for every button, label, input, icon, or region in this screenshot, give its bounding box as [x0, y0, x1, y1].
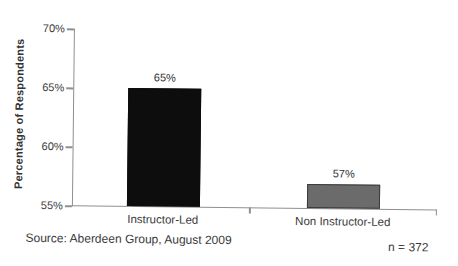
x-category-label-non-instructor-led: Non Instructor-Led [263, 215, 423, 229]
bar-instructor-led [127, 88, 201, 207]
y-tick-mark [66, 146, 73, 148]
x-tick-mark [435, 209, 437, 215]
y-tick-mark [67, 28, 74, 30]
y-tick-label: 65% [30, 80, 64, 92]
y-tick-label: 55% [29, 198, 63, 210]
x-tick-mark [249, 207, 251, 213]
chart-canvas: Percentage of Respondents 70% 65% 60% 55… [0, 0, 458, 266]
bar-non-instructor-led [307, 184, 380, 209]
y-tick-label: 70% [31, 21, 65, 33]
plot-area: 65% 57% Instructor-Led Non Instructor-Le… [72, 28, 439, 210]
bar-chart-figure: Percentage of Respondents 70% 65% 60% 55… [0, 0, 458, 266]
sample-size-note: n = 372 [328, 239, 428, 254]
bar-value-label: 57% [307, 167, 380, 180]
source-note: Source: Aberdeen Group, August 2009 [25, 231, 231, 247]
y-tick-mark [66, 87, 73, 89]
y-tick-mark [65, 205, 72, 207]
y-tick-label: 60% [30, 139, 64, 151]
y-axis-title: Percentage of Respondents [12, 19, 26, 209]
bar-value-label: 65% [128, 71, 201, 84]
x-category-label-instructor-led: Instructor-Led [83, 212, 243, 226]
